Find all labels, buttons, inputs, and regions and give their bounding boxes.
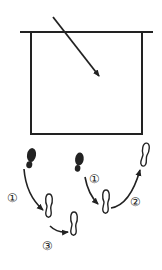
step-arrow (50, 226, 68, 232)
step-label-2: ② (130, 195, 141, 209)
outline-foot-icon (103, 190, 110, 213)
footwork-diagram: ① ③ ① ② (0, 0, 162, 270)
right-footstep-sequence: ① ② (73, 143, 150, 214)
step-arrow (24, 169, 43, 210)
filled-foot-icon (25, 147, 37, 169)
step-label-3: ③ (42, 239, 53, 253)
step-label-1: ① (7, 191, 18, 205)
step-label-1: ① (89, 172, 100, 186)
direction-arrow (53, 17, 99, 76)
outline-foot-icon (140, 143, 150, 167)
key-box (31, 32, 142, 134)
left-footstep-sequence: ① ③ (7, 147, 77, 253)
outline-foot-icon (46, 194, 53, 217)
outline-foot-icon (71, 212, 78, 235)
filled-foot-icon (73, 152, 84, 172)
